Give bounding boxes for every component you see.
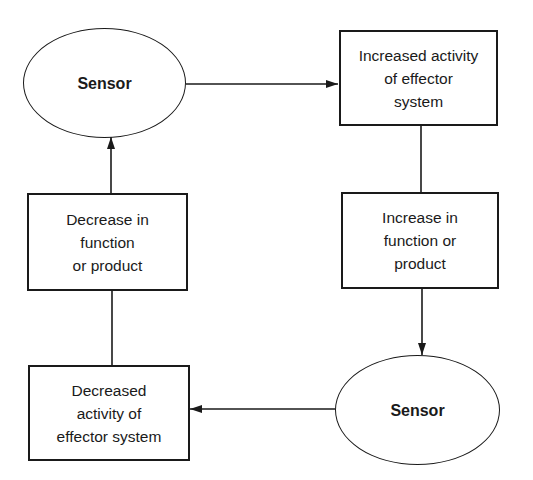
sensor-bottom-node: Sensor	[335, 355, 500, 465]
increase-function-label: Increase in function or product	[382, 206, 458, 275]
decrease-function-node: Decrease in function or product	[27, 193, 188, 291]
sensor-top-node: Sensor	[23, 28, 186, 138]
increased-activity-label: Increased activity of effector system	[359, 44, 479, 113]
decrease-function-label: Decrease in function or product	[66, 208, 149, 277]
sensor-top-label: Sensor	[77, 72, 131, 95]
increased-activity-node: Increased activity of effector system	[339, 30, 498, 126]
decreased-activity-node: Decreased activity of effector system	[28, 365, 190, 461]
decreased-activity-label: Decreased activity of effector system	[57, 379, 162, 448]
sensor-bottom-label: Sensor	[390, 399, 444, 422]
increase-function-node: Increase in function or product	[341, 192, 499, 289]
